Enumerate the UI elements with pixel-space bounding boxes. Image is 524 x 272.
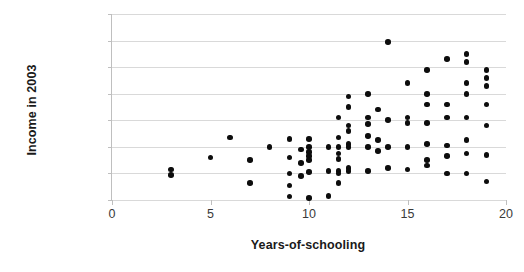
data-point — [326, 193, 332, 199]
data-point — [306, 136, 312, 142]
data-point — [484, 75, 490, 81]
data-point — [247, 157, 253, 163]
data-point — [346, 128, 352, 134]
data-point — [336, 135, 342, 141]
y-tick-mark — [108, 120, 112, 121]
data-point — [405, 167, 411, 173]
data-point — [298, 160, 304, 166]
data-point — [365, 91, 371, 97]
data-point — [346, 94, 352, 100]
data-point — [287, 194, 293, 200]
data-point — [444, 171, 450, 177]
data-point — [464, 137, 470, 143]
y-tick-mark — [108, 67, 112, 68]
data-point — [424, 91, 430, 97]
data-point — [484, 83, 490, 89]
y-gridline — [112, 120, 506, 121]
data-point — [306, 157, 312, 163]
data-point — [424, 163, 430, 169]
data-point — [484, 102, 490, 108]
data-point — [444, 143, 450, 149]
y-axis-title: Income in 2003 — [25, 30, 39, 190]
data-point — [464, 80, 470, 86]
data-point — [326, 168, 332, 174]
data-point — [464, 151, 470, 157]
data-point — [484, 123, 490, 129]
y-tick-mark — [108, 94, 112, 95]
data-point — [424, 120, 430, 126]
data-point — [306, 169, 312, 175]
data-point — [444, 153, 450, 159]
x-tick-label: 15 — [388, 207, 428, 221]
data-point — [247, 180, 253, 186]
data-point — [405, 80, 411, 86]
y-gridline — [112, 94, 506, 95]
data-point — [375, 148, 381, 154]
data-point — [464, 59, 470, 65]
data-point — [287, 155, 293, 161]
y-gridline — [112, 67, 506, 68]
data-point — [464, 51, 470, 57]
y-tick-mark — [108, 41, 112, 42]
x-tick-label: 10 — [289, 207, 329, 221]
x-tick-mark — [408, 200, 409, 205]
data-point — [385, 144, 391, 150]
data-point — [405, 120, 411, 126]
x-tick-label: 5 — [191, 207, 231, 221]
x-tick-mark — [211, 200, 212, 205]
data-point — [298, 147, 304, 153]
data-point — [365, 168, 371, 174]
data-point — [227, 135, 233, 141]
x-axis-title: Years-of-schooling — [111, 238, 505, 252]
data-point — [306, 195, 312, 201]
data-point — [336, 171, 342, 177]
data-point — [484, 67, 490, 73]
data-point — [267, 144, 273, 150]
y-gridline — [112, 14, 506, 15]
x-tick-mark — [112, 200, 113, 205]
data-point — [298, 173, 304, 179]
data-point — [405, 144, 411, 150]
data-point — [444, 102, 450, 108]
data-point — [424, 141, 430, 147]
data-point — [424, 102, 430, 108]
data-point — [346, 168, 352, 174]
data-point — [444, 56, 450, 62]
x-tick-label: 0 — [92, 207, 132, 221]
data-point — [484, 152, 490, 158]
data-point — [208, 155, 214, 161]
y-tick-mark — [108, 173, 112, 174]
data-point — [464, 171, 470, 177]
data-point — [346, 144, 352, 150]
y-tick-mark — [108, 147, 112, 148]
data-point — [287, 136, 293, 142]
data-point — [444, 115, 450, 121]
data-point — [326, 144, 332, 150]
scatter-chart: Income in 2003 05101520 Years-of-schooli… — [0, 0, 524, 272]
x-tick-mark — [506, 200, 507, 205]
data-point — [375, 137, 381, 143]
data-point — [365, 144, 371, 150]
data-point — [365, 133, 371, 139]
data-point — [375, 107, 381, 113]
data-point — [365, 121, 371, 127]
y-tick-mark — [108, 14, 112, 15]
y-gridline — [112, 41, 506, 42]
data-point — [336, 156, 342, 162]
data-point — [168, 172, 174, 178]
plot-area: 05101520 — [111, 14, 506, 201]
data-point — [385, 117, 391, 123]
data-point — [385, 39, 391, 45]
data-point — [336, 144, 342, 150]
x-tick-label: 20 — [486, 207, 524, 221]
data-point — [287, 171, 293, 177]
data-point — [336, 180, 342, 186]
data-point — [424, 67, 430, 73]
data-point — [464, 91, 470, 97]
data-point — [484, 179, 490, 185]
data-point — [346, 104, 352, 110]
data-point — [385, 165, 391, 171]
data-point — [287, 183, 293, 189]
